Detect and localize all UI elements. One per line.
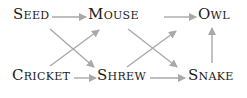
node-seed: Seed — [13, 7, 49, 22]
arrow-shrew-to-owl — [127, 31, 176, 67]
node-mouse: Mouse — [88, 7, 139, 22]
food-web-diagram: Seed Mouse Owl Cricket Shrew Snake — [0, 0, 247, 98]
node-shrew: Shrew — [97, 68, 146, 83]
node-cricket: Cricket — [12, 68, 70, 83]
node-snake: Snake — [188, 68, 234, 83]
node-owl: Owl — [198, 7, 230, 22]
